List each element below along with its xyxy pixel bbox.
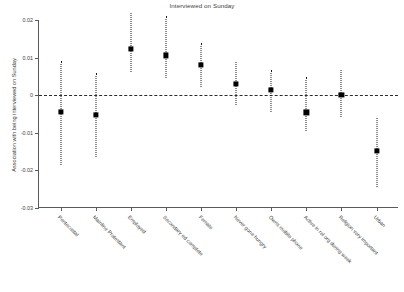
data-point bbox=[58, 110, 63, 115]
x-tick-mark bbox=[201, 207, 202, 211]
x-tick-mark bbox=[377, 207, 378, 211]
x-tick-mark bbox=[306, 207, 307, 211]
y-tick-mark bbox=[35, 95, 39, 96]
x-tick-mark bbox=[96, 207, 97, 211]
x-tick-mark bbox=[61, 207, 62, 211]
data-point bbox=[163, 53, 168, 58]
data-point bbox=[374, 148, 379, 153]
confidence-interval-bar bbox=[165, 16, 166, 78]
plot-area: 0.020.010-0.01-0.02-0.03 bbox=[38, 20, 398, 208]
x-tick-mark bbox=[166, 207, 167, 211]
x-tick-label: Religion very important bbox=[338, 214, 380, 256]
x-tick-mark bbox=[271, 207, 272, 211]
x-tick-mark bbox=[131, 207, 132, 211]
x-tick-label: Mainline Protestant bbox=[92, 214, 128, 250]
confidence-interval-bar bbox=[130, 13, 131, 72]
data-point bbox=[128, 46, 133, 51]
data-series bbox=[39, 20, 398, 207]
data-point bbox=[339, 93, 344, 98]
x-tick-mark bbox=[236, 207, 237, 211]
x-tick-label: Female bbox=[197, 214, 213, 230]
confidence-interval-bar bbox=[306, 77, 307, 131]
chart-title: Interviewed on Sunday bbox=[0, 2, 404, 9]
x-tick-label: Urban bbox=[373, 214, 387, 228]
y-tick-mark bbox=[35, 20, 39, 21]
y-tick-mark bbox=[35, 208, 39, 209]
y-tick-mark bbox=[35, 170, 39, 171]
y-tick-label: -0.03 bbox=[21, 205, 33, 211]
x-tick-label: Owns mobile phone bbox=[268, 214, 305, 251]
y-tick-label: -0.01 bbox=[21, 130, 33, 136]
x-tick-label: Active in rel org during week bbox=[303, 214, 353, 264]
y-axis-label: Association with being interviewed on Su… bbox=[11, 35, 17, 195]
data-point bbox=[93, 113, 98, 118]
data-point bbox=[234, 82, 239, 87]
y-tick-mark bbox=[35, 58, 39, 59]
data-point bbox=[198, 63, 203, 68]
x-tick-label: Employed bbox=[127, 214, 148, 235]
y-tick-label: 0.02 bbox=[23, 17, 34, 23]
x-tick-label: Secondary ed complete bbox=[162, 214, 205, 257]
chart-figure: Interviewed on Sunday Association with b… bbox=[0, 0, 404, 292]
data-point bbox=[269, 87, 274, 92]
y-tick-label: -0.02 bbox=[21, 167, 33, 173]
y-tick-mark bbox=[35, 133, 39, 134]
data-point bbox=[304, 110, 309, 115]
x-tick-label: Never gone hungry bbox=[232, 214, 267, 249]
x-tick-label: Pentecostal bbox=[57, 214, 80, 237]
y-tick-label: 0.01 bbox=[23, 55, 34, 61]
y-tick-label: 0 bbox=[30, 92, 33, 98]
x-tick-mark bbox=[341, 207, 342, 211]
